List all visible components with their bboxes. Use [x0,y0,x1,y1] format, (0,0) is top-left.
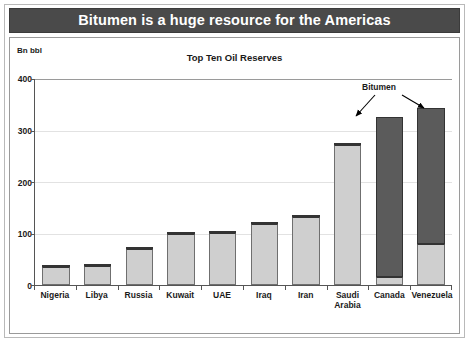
bar-group [35,79,452,285]
x-tick-mark [327,286,328,290]
bar-segment-conventional [334,145,361,285]
bar-segment-bitumen [376,117,403,277]
bar-slot-russia[interactable] [120,79,159,285]
bar-uae [209,231,236,285]
slide: Bitumen is a huge resource for the Ameri… [0,0,469,342]
y-axis-tick-labels: 400 300 200 100 0 [10,79,32,286]
bar-nigeria [42,265,69,285]
bar-slot-libya[interactable] [78,79,117,285]
y-tick-label-400: 400 [6,74,32,84]
x-label-iran: Iran [286,291,325,311]
x-tick-mark [368,286,369,290]
bar-russia [126,247,153,285]
x-label-iraq: Iraq [244,291,283,311]
bar-slot-iran[interactable] [286,79,325,285]
x-tick-mark [201,286,202,290]
y-tick-label-100: 100 [6,229,32,239]
bar-canada [376,117,403,285]
x-tick-mark [285,286,286,290]
slide-title: Bitumen is a huge resource for the Ameri… [78,13,390,28]
bar-segment-conventional [84,266,111,285]
x-tick-mark [159,286,160,290]
y-tick-label-300: 300 [6,126,32,136]
bar-slot-kuwait[interactable] [161,79,200,285]
bar-venezuela [417,108,444,285]
bar-segment-conventional [251,224,278,285]
bar-saudi-arabia [334,143,361,285]
x-label-uae: UAE [202,291,241,311]
bar-slot-saudi-arabia[interactable] [328,79,367,285]
y-tick-label-200: 200 [6,178,32,188]
bar-segment-conventional [42,267,69,285]
bar-segment-conventional [417,244,444,285]
x-tick-mark [76,286,77,290]
bar-segment-conventional [292,217,319,285]
chart-title: Top Ten Oil Reserves [10,52,459,63]
x-label-kuwait: Kuwait [161,291,200,311]
slide-title-banner: Bitumen is a huge resource for the Ameri… [9,8,460,33]
x-label-saudi-arabia: Saudi Arabia [328,291,367,311]
bar-slot-iraq[interactable] [245,79,284,285]
x-tick-mark [118,286,119,290]
bar-segment-bitumen [417,108,444,244]
bar-slot-nigeria[interactable] [36,79,75,285]
bar-iran [292,215,319,285]
bar-slot-canada[interactable] [370,79,409,285]
bar-segment-conventional [126,249,153,285]
x-tick-mark [34,286,35,290]
bar-segment-conventional [209,233,236,285]
bar-libya [84,264,111,285]
bar-iraq [251,222,278,285]
x-label-russia: Russia [119,291,158,311]
x-tick-mark [243,286,244,290]
x-label-canada: Canada [370,291,409,311]
bar-slot-uae[interactable] [203,79,242,285]
x-label-libya: Libya [77,291,116,311]
bar-kuwait [167,232,194,285]
bar-segment-conventional [167,234,194,285]
bar-segment-conventional [376,277,403,285]
chart-panel: Bn bbl Top Ten Oil Reserves 400 300 200 … [9,37,460,334]
y-tick-label-0: 0 [6,281,32,291]
x-label-venezuela: Venezuela [411,291,450,311]
plot-area [34,79,452,286]
annotation-label-bitumen: Bitumen [362,82,396,92]
x-label-nigeria: Nigeria [35,291,74,311]
x-axis-category-labels: Nigeria Libya Russia Kuwait UAE Iraq Ira… [34,291,452,311]
bar-slot-venezuela[interactable] [411,79,450,285]
